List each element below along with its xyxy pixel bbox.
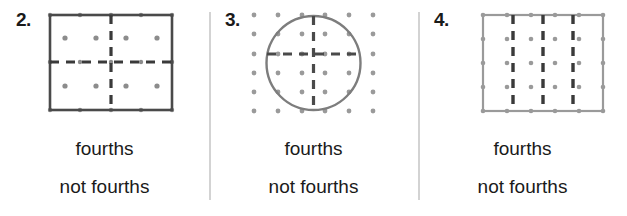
answer-options-4: fourths not fourths [418,128,627,196]
shape-outline [267,16,361,110]
option-not-fourths-4[interactable]: not fourths [418,177,627,196]
partition-lines [513,15,573,111]
problem-4: 4. [418,0,627,216]
option-fourths-2[interactable]: fourths [0,139,209,158]
problem-3: 3. [209,0,418,216]
figure-rectangle-vertical-strips [418,0,627,128]
answer-options-2: fourths not fourths [0,128,209,196]
option-fourths-3[interactable]: fourths [209,139,418,158]
figure-rectangle-cross-partition [0,0,209,128]
option-not-fourths-2[interactable]: not fourths [0,177,209,196]
option-fourths-4[interactable]: fourths [418,139,627,158]
problem-2: 2. [0,0,209,216]
option-not-fourths-3[interactable]: not fourths [209,177,418,196]
worksheet-problem-row: 2. [0,0,627,216]
figure-circle-cross-partition [209,0,418,128]
answer-options-3: fourths not fourths [209,128,418,196]
